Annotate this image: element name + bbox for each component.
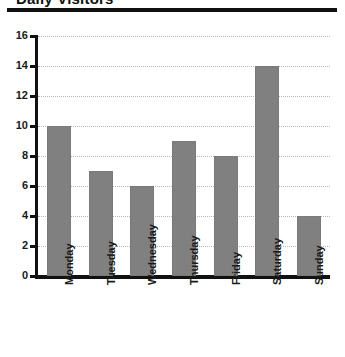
gridline bbox=[38, 126, 330, 127]
y-axis-tick bbox=[30, 215, 38, 218]
y-axis-tick-label: 8 bbox=[2, 150, 28, 161]
y-axis-tick-label: 6 bbox=[2, 180, 28, 191]
gridline bbox=[38, 96, 330, 97]
y-axis-tick-label: 0 bbox=[2, 270, 28, 281]
x-axis-category-label: Friday bbox=[231, 252, 242, 285]
y-axis-tick bbox=[30, 245, 38, 248]
x-axis-category-label: Monday bbox=[64, 243, 75, 285]
y-axis-tick bbox=[30, 275, 38, 278]
y-axis-tick bbox=[30, 95, 38, 98]
y-axis-tick bbox=[30, 155, 38, 158]
x-axis-category-label: Sunday bbox=[314, 245, 325, 285]
y-axis-tick-label: 2 bbox=[2, 240, 28, 251]
y-axis-tick bbox=[30, 35, 38, 38]
gridline bbox=[38, 66, 330, 67]
x-axis-category-label: Wednesday bbox=[147, 224, 158, 285]
x-axis-category-label: Thursday bbox=[189, 235, 200, 285]
x-axis-category-label: Saturday bbox=[272, 238, 283, 285]
y-axis-tick bbox=[30, 125, 38, 128]
y-axis-tick-label: 12 bbox=[2, 90, 28, 101]
y-axis-tick bbox=[30, 185, 38, 188]
y-axis-tick bbox=[30, 65, 38, 68]
y-axis-labels: 0246810121416 bbox=[0, 0, 28, 357]
y-axis-tick-label: 4 bbox=[2, 210, 28, 221]
y-axis-tick-label: 14 bbox=[2, 60, 28, 71]
y-axis-tick-label: 10 bbox=[2, 120, 28, 131]
x-axis-category-label: Tuesday bbox=[106, 241, 117, 285]
bar-chart: 0246810121416 MondayTuesdayWednesdayThur… bbox=[0, 0, 345, 357]
y-axis-tick-label: 16 bbox=[2, 30, 28, 41]
gridline bbox=[38, 36, 330, 37]
